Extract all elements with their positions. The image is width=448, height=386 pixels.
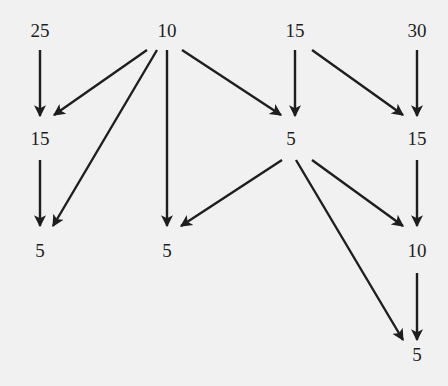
edge-arrow-n5a-to-n5c [181, 160, 282, 226]
node-n10a: 10 [158, 20, 177, 41]
edge-arrow-n10a-to-n5a [182, 50, 281, 115]
node-n30: 30 [408, 20, 427, 41]
edges-layer [40, 50, 417, 340]
directed-graph-diagram: 251015301551555105 [0, 0, 448, 386]
edge-arrow-n15a-to-n15c [312, 50, 403, 115]
node-n5c: 5 [162, 240, 172, 261]
node-n15a: 15 [286, 20, 305, 41]
edge-arrow-n5a-to-n10b [312, 160, 403, 226]
node-n5b: 5 [35, 240, 45, 261]
edge-arrow-n10a-to-n15b [54, 50, 147, 115]
node-n15b: 15 [31, 128, 50, 149]
edge-arrow-n10a-to-n5b [53, 50, 157, 226]
nodes-layer: 251015301551555105 [31, 20, 427, 365]
node-n5a: 5 [286, 128, 296, 149]
node-n10b: 10 [408, 240, 427, 261]
node-n5d: 5 [412, 344, 422, 365]
node-n25: 25 [31, 20, 50, 41]
node-n15c: 15 [408, 128, 427, 149]
